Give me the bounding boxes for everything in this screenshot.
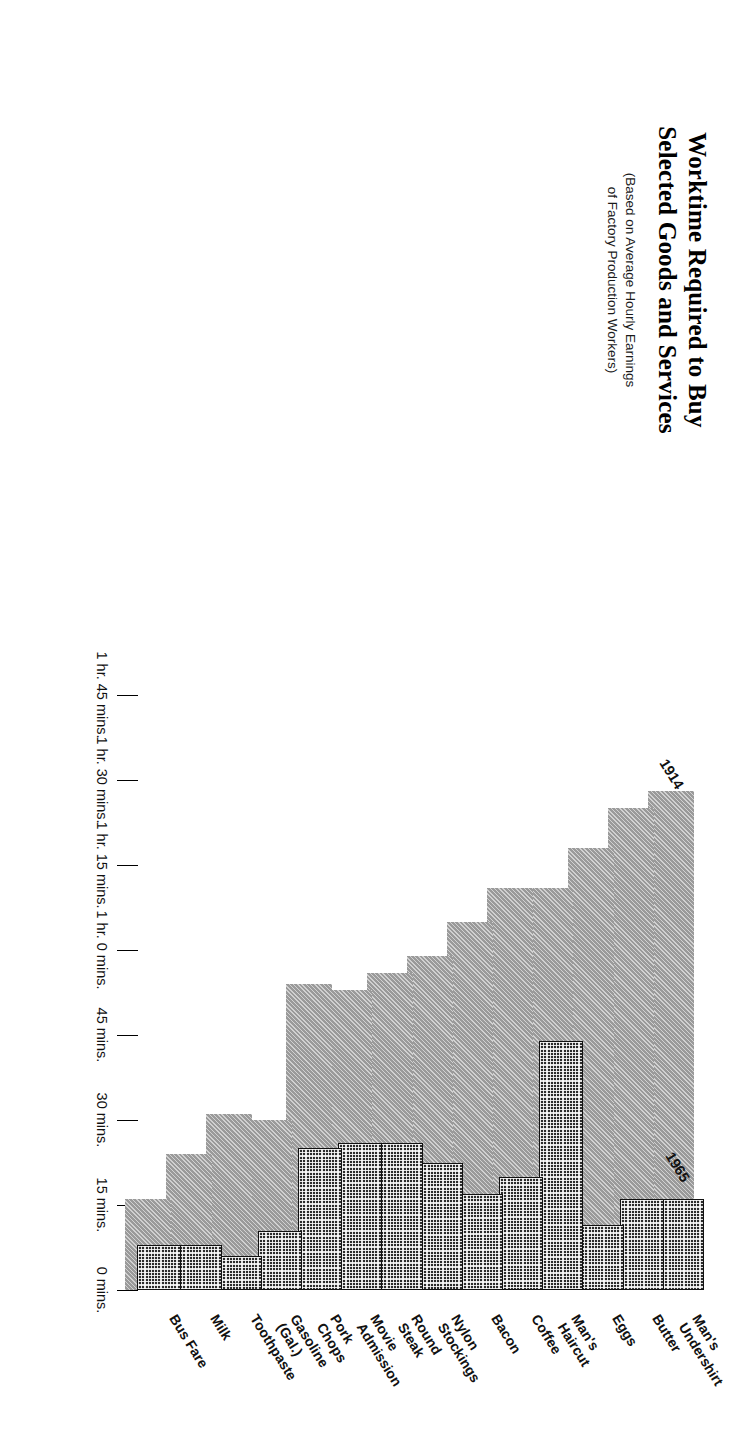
bar-1965 xyxy=(338,1143,382,1290)
rotated-figure-wrapper: Worktime Required to Buy Selected Goods … xyxy=(0,0,740,1450)
bar-1965 xyxy=(459,1194,503,1290)
bar-1965 xyxy=(137,1245,181,1290)
bar-1965 xyxy=(419,1163,463,1291)
x-axis-tick-label: 1 hr. 0 mins. xyxy=(94,911,110,990)
bar-1965 xyxy=(539,1041,583,1290)
figure-plane: Worktime Required to Buy Selected Goods … xyxy=(0,0,740,1450)
bar-row xyxy=(125,0,181,1450)
bar-1965 xyxy=(499,1177,543,1290)
bar-1965 xyxy=(218,1256,262,1290)
x-axis-tick-label: 1 hr. 45 mins. xyxy=(94,651,110,738)
bar-1965 xyxy=(580,1225,624,1290)
x-axis-tick-label: 0 mins. xyxy=(94,1267,110,1314)
bar-1965 xyxy=(298,1148,342,1290)
x-axis-tick-label: 1 hr. 30 mins. xyxy=(94,736,110,823)
bar-1965 xyxy=(178,1245,222,1290)
x-axis-tick-label: 1 hr. 15 mins. xyxy=(94,821,110,908)
x-axis-tick-label: 15 mins. xyxy=(94,1178,110,1233)
x-axis-tick-label: 30 mins. xyxy=(94,1093,110,1148)
bar-1965 xyxy=(620,1199,664,1290)
x-axis-tick-label: 45 mins. xyxy=(94,1008,110,1063)
bar-1965 xyxy=(258,1231,302,1291)
chart-plot-area: Worktime Required to Buy Selected Goods … xyxy=(0,0,740,1450)
bar-1965 xyxy=(660,1199,704,1290)
bar-1965 xyxy=(379,1143,423,1290)
